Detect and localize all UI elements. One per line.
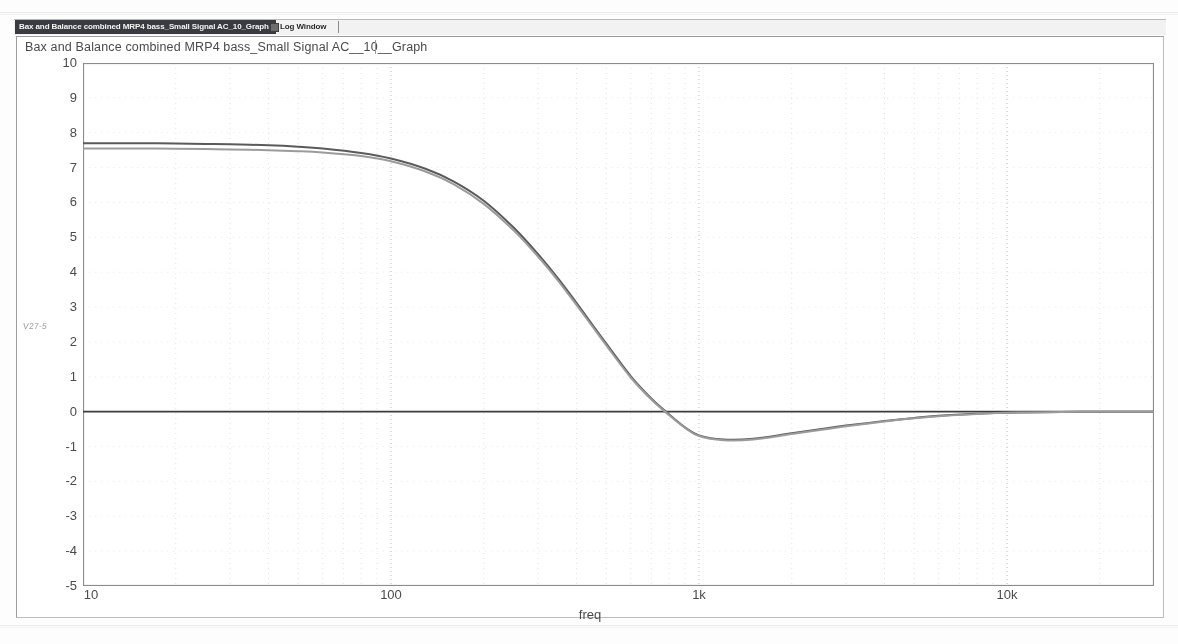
y-tick-label: -1 — [37, 440, 77, 453]
y-tick-label: 6 — [37, 195, 77, 208]
graph-window-title: Bax and Balance combined MRP4 bass_Small… — [17, 37, 1163, 57]
scan-artifact-line — [0, 625, 1178, 626]
tab-graph-window[interactable]: Bax and Balance combined MRP4 bass_Small… — [15, 20, 276, 34]
y-tick-label: -2 — [37, 474, 77, 487]
tab-strip: Bax and Balance combined MRP4 bass_Small… — [14, 19, 1166, 35]
x-tick-label: 10k — [967, 588, 1047, 602]
y-tick-label: 8 — [37, 126, 77, 139]
y-tick-label: 2 — [37, 335, 77, 348]
y-tick-label: 10 — [37, 56, 77, 69]
scan-artifact-line — [0, 14, 1178, 15]
plot-canvas — [83, 63, 1154, 586]
scan-artifact-line — [0, 627, 1178, 628]
y-tick-label: 4 — [37, 265, 77, 278]
y-tick-label: 9 — [37, 91, 77, 104]
y-tick-label: 5 — [37, 230, 77, 243]
y-tick-label: 1 — [37, 370, 77, 383]
y-tick-label: -3 — [37, 509, 77, 522]
plot-area[interactable] — [83, 63, 1154, 586]
x-tick-label: 1k — [659, 588, 739, 602]
x-tick-label: 100 — [351, 588, 431, 602]
graph-window: Bax and Balance combined MRP4 bass_Small… — [16, 36, 1164, 618]
x-tick-label: 10 — [51, 588, 131, 602]
application-window: Bax and Balance combined MRP4 bass_Small… — [0, 0, 1178, 644]
trace-trace-2 — [83, 148, 1154, 440]
y-tick-label: 3 — [37, 300, 77, 313]
y-tick-label: 7 — [37, 161, 77, 174]
y-axis-tick-labels: 109876543210-1-2-3-4-5 — [29, 63, 77, 586]
x-axis-tick-labels: 101001k10k — [83, 588, 1154, 606]
y-tick-label: 0 — [37, 405, 77, 418]
trace-trace-1 — [83, 143, 1154, 440]
tab-log-window[interactable]: Log Window — [276, 20, 330, 34]
tab-separator — [338, 21, 339, 33]
y-tick-label: -4 — [37, 544, 77, 557]
title-separator — [375, 40, 376, 54]
x-axis-title: freq — [17, 607, 1163, 622]
scan-artifact-line — [0, 12, 1178, 13]
